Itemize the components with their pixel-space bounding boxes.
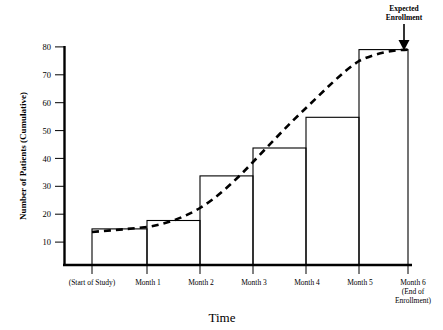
chart-canvas: 80 70 60 50 40 30 20 10 Number of Patien… bbox=[0, 0, 443, 330]
y-tick-label-60: 60 bbox=[43, 98, 52, 108]
annotation-line-1: Expected bbox=[389, 4, 419, 13]
x-tick-label-month-6-line3: Enrollment) bbox=[395, 296, 432, 305]
enrollment-chart: 80 70 60 50 40 30 20 10 Number of Patien… bbox=[0, 0, 443, 330]
y-tick-label-70: 70 bbox=[43, 70, 52, 80]
x-axis-title: Time bbox=[209, 310, 236, 325]
x-tick-label-month-5: Month 5 bbox=[347, 278, 373, 287]
y-tick-label-30: 30 bbox=[43, 181, 52, 191]
x-tick-label-month-3: Month 3 bbox=[241, 278, 267, 287]
y-tick-label-20: 20 bbox=[43, 209, 52, 219]
y-tick-label-10: 10 bbox=[43, 237, 52, 247]
x-tick-label-month-6: Month 6 bbox=[400, 278, 426, 287]
y-tick-label-40: 40 bbox=[43, 154, 52, 164]
x-tick-label-start-of-study: (Start of Study) bbox=[69, 278, 116, 287]
x-tick-label-month-1: Month 1 bbox=[135, 278, 161, 287]
annotation-line-2: Enrollment bbox=[386, 13, 423, 22]
y-tick-label-50: 50 bbox=[43, 126, 52, 136]
y-axis-title: Number of Patients (Cumulative) bbox=[18, 92, 28, 220]
x-tick-label-month-2: Month 2 bbox=[188, 278, 214, 287]
x-tick-label-month-6-line2: (End of bbox=[402, 287, 425, 296]
y-tick-label-80: 80 bbox=[43, 42, 52, 52]
x-tick-label-month-4: Month 4 bbox=[294, 278, 320, 287]
expected-enrollment-label: Expected Enrollment bbox=[386, 4, 423, 22]
